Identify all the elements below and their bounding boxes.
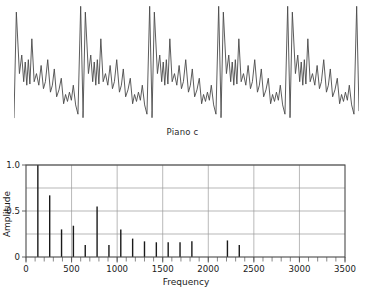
waveform-caption: Piano c	[0, 127, 365, 137]
x-tick-label: 2000	[197, 264, 219, 274]
x-minor-ticks	[26, 257, 345, 262]
waveform-panel: Piano c	[0, 0, 365, 150]
y-tick-label: 0.5	[6, 206, 20, 216]
x-tick-label: 3500	[334, 264, 356, 274]
x-tick-label: 0	[23, 264, 28, 274]
x-tick-label: 500	[63, 264, 79, 274]
x-tick-label: 2500	[243, 264, 265, 274]
x-major-ticks	[26, 257, 345, 263]
x-axis-title: Frequency	[163, 277, 210, 287]
y-tick-label: 0	[15, 252, 20, 262]
x-tick-label: 1500	[152, 264, 174, 274]
x-tick-labels: 0500100015002000250030003500	[23, 264, 356, 274]
y-tick-labels: 00.51.0	[6, 160, 20, 262]
waveform-trace	[14, 6, 359, 117]
x-tick-label: 1000	[106, 264, 128, 274]
x-tick-label: 3000	[288, 264, 310, 274]
waveform-plot	[14, 2, 359, 122]
spectrum-chart: Amplitude Frequency 05001000150020002500…	[0, 152, 365, 292]
spectrum-panel: Amplitude Frequency 05001000150020002500…	[0, 152, 365, 292]
y-tick-label: 1.0	[6, 160, 20, 170]
y-ticks	[22, 165, 26, 257]
